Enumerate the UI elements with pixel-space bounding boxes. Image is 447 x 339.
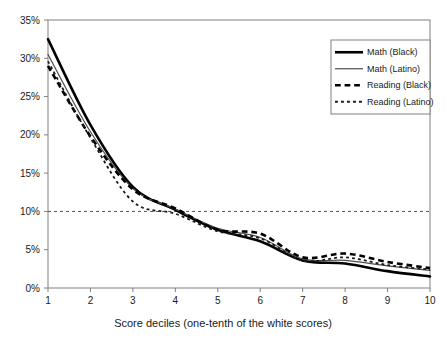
x-axis-tick-label: 9: [385, 295, 391, 306]
y-axis-tick-label: 20%: [20, 129, 40, 140]
y-axis-tick-label: 5%: [26, 244, 41, 255]
legend-label-2: Reading (Black): [367, 80, 431, 90]
chart-legend: Math (Black)Math (Latino)Reading (Black)…: [331, 40, 434, 114]
x-axis-title: Score deciles (one-tenth of the white sc…: [114, 317, 332, 329]
x-axis-tick-label: 10: [424, 295, 436, 306]
legend-label-3: Reading (Latino): [367, 97, 434, 107]
legend-label-1: Math (Latino): [367, 64, 420, 74]
y-axis-tick-label: 30%: [20, 53, 40, 64]
x-axis-tick-label: 7: [300, 295, 306, 306]
x-axis-tick-label: 4: [173, 295, 179, 306]
x-axis-tick-label: 8: [342, 295, 348, 306]
x-axis-tick-label: 3: [130, 295, 136, 306]
legend-label-0: Math (Black): [367, 47, 418, 57]
y-axis-tick-label: 10%: [20, 206, 40, 217]
y-axis-tick-label: 35%: [20, 15, 40, 26]
x-axis-tick-label: 1: [45, 295, 51, 306]
x-axis-tick-label: 6: [257, 295, 263, 306]
y-axis-tick-label: 0%: [26, 283, 41, 294]
x-axis-tick-label: 5: [215, 295, 221, 306]
chart-container: 0%5%10%15%20%25%30%35% 12345678910 Math …: [0, 0, 447, 339]
y-axis-tick-label: 15%: [20, 168, 40, 179]
y-axis-tick-label: 25%: [20, 91, 40, 102]
x-axis-tick-label: 2: [88, 295, 94, 306]
line-chart: 0%5%10%15%20%25%30%35% 12345678910 Math …: [0, 0, 447, 339]
